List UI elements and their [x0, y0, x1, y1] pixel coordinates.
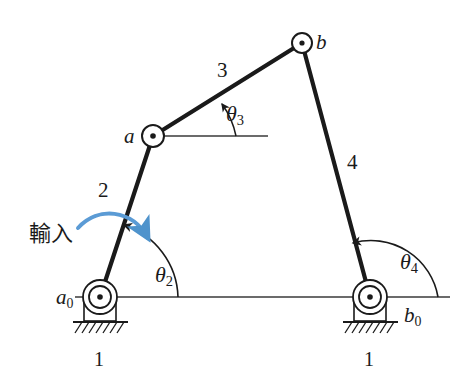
label-theta4-sub: 4: [411, 260, 418, 276]
label-joint-b: b: [316, 30, 327, 55]
pivot-a0: [83, 280, 117, 321]
ground-support-right: [343, 322, 398, 333]
label-theta3-base: θ: [226, 101, 237, 126]
label-theta3: θ3: [226, 101, 244, 129]
label-joint-b0-sub: 0: [415, 314, 422, 329]
label-link-2: 2: [98, 178, 109, 203]
label-theta4-base: θ: [400, 249, 411, 274]
label-theta3-sub: 3: [237, 112, 244, 128]
label-joint-a0-base: a: [56, 285, 67, 309]
label-theta4: θ4: [400, 249, 418, 277]
label-theta2: θ2: [155, 262, 173, 290]
linkage-drawing: [0, 0, 473, 384]
label-input-text: 輸入: [29, 215, 73, 247]
label-joint-b0-base: b: [404, 303, 415, 327]
label-joint-a0-sub: 0: [67, 296, 74, 311]
pivot-b0: [353, 280, 387, 321]
label-link-4: 4: [347, 150, 358, 175]
label-joint-b0: b0: [404, 303, 421, 330]
linkage-diagram: a b a0 b0 2 3 4 1 1 θ2 θ3 θ4 輸入: [0, 0, 473, 384]
pivot-a: [142, 125, 164, 147]
label-theta2-base: θ: [155, 262, 166, 287]
label-ground-left-1: 1: [94, 348, 104, 371]
link-4-rocker: [302, 43, 370, 297]
label-joint-a: a: [124, 124, 135, 149]
pivot-b: [292, 33, 312, 53]
label-link-3: 3: [217, 58, 228, 83]
label-joint-a0: a0: [56, 285, 73, 312]
ground-support-left: [73, 322, 128, 333]
label-ground-right-1: 1: [364, 348, 374, 371]
input-rotation-arrow: [78, 214, 148, 238]
label-theta2-sub: 2: [166, 273, 173, 289]
